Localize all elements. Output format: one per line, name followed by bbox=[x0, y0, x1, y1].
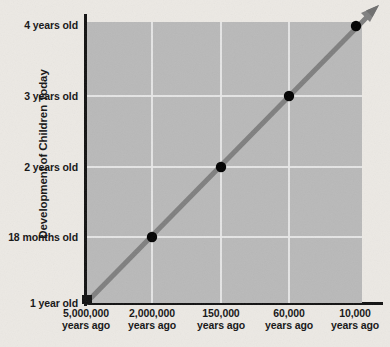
y-tick-label-2-years: 2 years old bbox=[24, 161, 78, 173]
y-tick-label-4-years: 4 years old bbox=[24, 19, 78, 31]
trend-arrowhead-icon bbox=[361, 5, 379, 22]
x-tick-label-10000-unit: years ago bbox=[300, 320, 390, 332]
chart-figure: Development of Children Today 4 years ol… bbox=[0, 0, 390, 347]
y-tick-label-18-months: 18 months old bbox=[8, 231, 78, 243]
gridline-vertical-60000 bbox=[288, 22, 290, 303]
gridline-horizontal-3-years bbox=[87, 95, 362, 97]
x-tick-label-10000: 10,000 years ago bbox=[300, 308, 390, 331]
x-tick-label-10000-value: 10,000 bbox=[339, 307, 371, 319]
gridline-vertical-150000 bbox=[220, 22, 222, 303]
trend-arrowhead-inner-icon bbox=[366, 5, 379, 17]
plot-area bbox=[87, 22, 362, 303]
gridline-horizontal-18-months bbox=[87, 236, 362, 238]
gridline-horizontal-2-years bbox=[87, 166, 362, 168]
gridline-vertical-2000000 bbox=[151, 22, 153, 303]
y-tick-label-3-years: 3 years old bbox=[24, 90, 78, 102]
